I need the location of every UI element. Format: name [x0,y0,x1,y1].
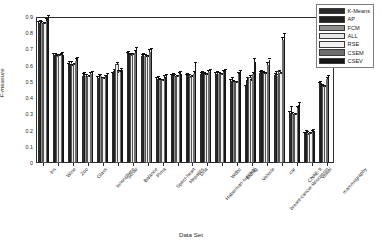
error-bar-cap [150,48,153,49]
figure: F-measure Data Set 00.10.20.30.40.50.60.… [0,0,382,250]
legend-swatch [319,16,345,22]
error-bar-cap [246,77,249,78]
y-tick-label: 0.6 [26,63,34,69]
error-bar-cap [327,75,330,76]
error-bar-cap [275,71,278,72]
error-bar [100,75,101,76]
x-tick-mark [58,163,59,166]
bar-groups [37,18,333,162]
error-bar [210,70,211,72]
bar-group [186,18,199,162]
bar-group [141,18,154,162]
error-bar-cap [283,33,286,34]
y-tick-label: 0.7 [26,46,34,52]
bar-group [230,18,243,162]
error-bar [107,74,108,76]
error-bar-cap [298,102,301,103]
error-bar [291,107,292,110]
error-bar [48,16,49,18]
bar-group [156,18,169,162]
error-bar [62,53,63,54]
x-tick-mark [118,163,119,166]
error-bar [117,63,118,65]
x-tick-mark [312,163,313,166]
error-bar-cap [231,77,234,78]
error-bar [313,130,314,132]
y-tick-label: 0.5 [26,79,34,85]
legend-swatch [319,33,345,39]
legend-item[interactable]: CSEM [319,48,370,56]
x-tick-mark [297,163,298,166]
error-bar-cap [135,47,138,48]
bar-fill [254,62,256,162]
legend-item[interactable]: RSE [319,40,370,48]
legend-label: CSEM [348,50,364,56]
error-bar-cap [319,81,322,82]
error-bar-cap [99,74,102,75]
y-tick-label: 0 [30,160,33,166]
y-tick-label: 0.9 [26,14,34,20]
legend-label: CSEV [348,58,363,64]
error-bar [195,63,196,65]
error-bar-cap [47,15,50,16]
legend-item[interactable]: ALL [319,32,370,40]
legend-label: FCM [348,25,360,31]
legend-swatch [319,8,345,14]
legend-item[interactable]: CSEV [319,57,370,65]
bar-group [82,18,95,162]
bar-fill [136,50,138,162]
x-tick-mark [178,163,179,166]
bar-fill [62,55,64,162]
bar-fill [47,18,49,162]
x-category-label: Vehicle [260,166,275,182]
legend-label: ALL [348,33,358,39]
error-bar-cap [290,106,293,107]
x-category-label: Glass [95,166,108,180]
x-tick-mark [267,163,268,166]
x-tick-mark [148,163,149,166]
bar-group [200,18,213,162]
error-bar [121,69,122,71]
legend-swatch [319,41,345,47]
legend-label: AP [348,16,355,22]
error-bar [250,76,251,77]
error-bar [269,60,270,62]
bar-group [274,18,287,162]
error-bar-cap [278,70,281,71]
x-tick-mark [222,163,223,166]
bar-fill [210,71,212,162]
error-bar-cap [249,75,252,76]
legend-item[interactable]: FCM [319,24,370,32]
legend-item[interactable]: AP [319,15,370,23]
error-bar-cap [268,58,271,59]
x-tick-mark [43,163,44,166]
y-tick-label: 0.4 [26,95,34,101]
bar-group [97,18,110,162]
legend-swatch [319,49,345,55]
bar-fill [269,61,271,162]
x-category-label: Iris [49,166,58,175]
bar-group [112,18,125,162]
legend-item[interactable]: K-Means [319,7,370,15]
bar-group [289,18,302,162]
error-bar-cap [61,52,64,53]
bar-fill [328,78,330,162]
x-tick-mark [88,163,89,166]
error-bar [180,72,181,74]
bar-group [259,18,272,162]
x-tick-mark [73,163,74,166]
y-tick-label: 0.1 [26,144,34,150]
y-tick-label: 0.8 [26,30,34,36]
bar-fill [298,105,300,162]
bar-fill [151,51,153,162]
error-bar [240,71,241,73]
x-category-label: mammography [341,166,368,195]
error-bar-cap [165,74,168,75]
error-bar-cap [239,70,242,71]
error-bar-cap [194,62,197,63]
bar-fill [92,74,94,162]
error-bar-cap [70,61,73,62]
error-bar [166,75,167,77]
bar-fill [284,36,286,162]
legend-swatch [319,58,345,64]
